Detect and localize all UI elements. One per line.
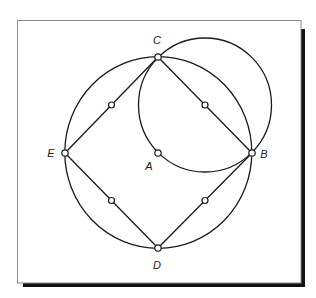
midpoint-B-D	[202, 198, 208, 204]
frame-shadow-right	[301, 29, 305, 287]
point-label-A: A	[144, 160, 152, 172]
geometry-diagram: ABCDE	[0, 0, 316, 298]
midpoint-C-B	[202, 102, 208, 108]
midpoint-E-C	[109, 102, 115, 108]
point-label-D: D	[153, 259, 161, 271]
midpoint-E-D	[109, 198, 115, 204]
point-label-C: C	[153, 34, 161, 46]
point-B	[249, 150, 255, 156]
point-E	[62, 150, 68, 156]
point-D	[155, 245, 161, 251]
point-C	[155, 54, 161, 60]
point-label-E: E	[47, 147, 55, 159]
point-label-B: B	[260, 148, 267, 160]
point-A	[155, 150, 161, 156]
frame-shadow-bottom	[23, 283, 305, 287]
